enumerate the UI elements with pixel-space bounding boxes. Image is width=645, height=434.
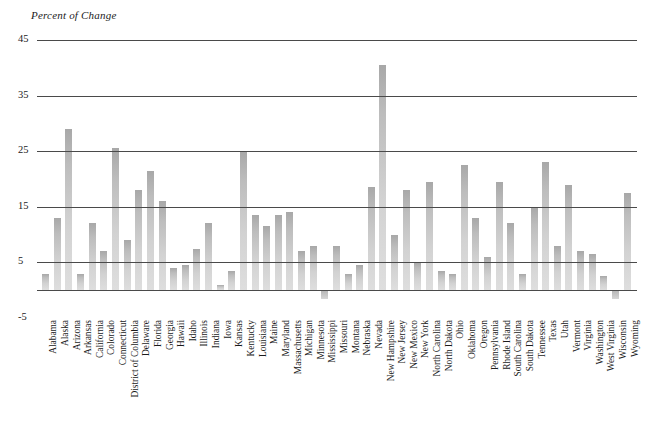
x-tick-label-nebraska: Nebraska — [363, 320, 372, 355]
gridline-45 — [37, 40, 637, 41]
x-tick-label-delaware: Delaware — [142, 320, 151, 356]
y-tick-label-25: 25 — [18, 144, 29, 155]
x-tick-label-virginia: Virginia — [584, 320, 593, 351]
gridline-5 — [37, 262, 637, 263]
x-tick-label-south-dakota: South Dakota — [526, 320, 535, 371]
x-tick-label-north-dakota: North Dakota — [445, 320, 454, 371]
y-tick-label-5: 5 — [18, 255, 23, 266]
x-tick-label-oklahoma: Oklahoma — [468, 320, 477, 359]
bar-california — [89, 223, 96, 290]
x-tick-label-alabama: Alabama — [49, 320, 58, 354]
plot-area — [37, 40, 637, 318]
bar-new-mexico — [403, 190, 410, 290]
x-tick-label-massachusetts: Massachusetts — [294, 320, 303, 374]
x-tick-label-arkansas: Arkansas — [84, 320, 93, 355]
x-tick-label-mississippi: Mississippi — [328, 320, 337, 363]
bar-nevada — [368, 187, 375, 290]
x-tick-label-colorado: Colorado — [107, 320, 116, 355]
y-tick-label-15: 15 — [18, 200, 29, 211]
gridline-35 — [37, 96, 637, 97]
x-tick-label-north-carolina: North Carolina — [433, 320, 442, 377]
y-tick-label--5: -5 — [18, 311, 27, 322]
x-tick-label-hawaii: Hawaii — [177, 320, 186, 347]
bar-texas — [542, 162, 549, 290]
bar-tennessee — [531, 207, 538, 290]
x-tick-label-indiana: Indiana — [212, 320, 221, 348]
x-tick-label-washington: Washington — [596, 320, 605, 365]
x-tick-label-pennsylvania: Pennsylvania — [491, 320, 500, 370]
bar-colorado — [100, 251, 107, 290]
bar-south-carolina — [507, 223, 514, 290]
bar-north-carolina — [426, 182, 433, 290]
x-tick-label-tennessee: Tennessee — [538, 320, 547, 358]
percent-of-change-bar-chart: Percent of Change 453525155-5 AlabamaAla… — [0, 0, 645, 434]
x-tick-label-vermont: Vermont — [573, 320, 582, 352]
y-tick-label-45: 45 — [18, 33, 29, 44]
x-tick-label-iowa: Iowa — [224, 320, 233, 339]
x-tick-label-rhode-island: Rhode Island — [503, 320, 512, 370]
bar-mississippi — [321, 290, 328, 298]
bar-michigan — [298, 251, 305, 290]
chart-title: Percent of Change — [31, 9, 116, 21]
bar-montana — [345, 274, 352, 291]
bar-virginia — [577, 251, 584, 290]
x-tick-label-new-jersey: New Jersey — [398, 320, 407, 363]
x-tick-label-maine: Maine — [270, 320, 279, 344]
x-tick-label-florida: Florida — [154, 320, 163, 347]
x-tick-label-west-virginia: West Virginia — [607, 320, 616, 371]
x-tick-label-georgia: Georgia — [166, 320, 175, 350]
bar-georgia — [159, 201, 166, 290]
bar-louisiana — [252, 215, 259, 290]
bar-north-dakota — [438, 271, 445, 290]
bar-hawaii — [170, 268, 177, 290]
x-tick-label-louisiana: Louisiana — [259, 320, 268, 357]
x-tick-label-kansas: Kansas — [235, 320, 244, 347]
bar-kansas — [228, 271, 235, 290]
bar-south-dakota — [519, 274, 526, 291]
bar-oklahoma — [461, 165, 468, 290]
bar-utah — [554, 246, 561, 290]
x-tick-label-missouri: Missouri — [340, 320, 349, 353]
x-tick-label-utah: Utah — [561, 320, 570, 338]
x-tick-label-michigan: Michigan — [305, 320, 314, 356]
gridline-25 — [37, 151, 637, 152]
bar-rhode-island — [496, 182, 503, 290]
x-tick-label-illinois: Illinois — [200, 320, 209, 347]
bar-washington — [589, 254, 596, 290]
x-tick-label-texas: Texas — [549, 320, 558, 342]
x-tick-label-wisconsin: Wisconsin — [619, 320, 628, 359]
bar-connecticut — [112, 148, 119, 290]
bar-missouri — [333, 246, 340, 290]
x-tick-label-california: California — [96, 320, 105, 358]
x-tick-label-district-of-columbia: District of Columbia — [131, 320, 140, 398]
bar-arkansas — [77, 274, 84, 291]
bar-west-virginia — [600, 276, 607, 290]
bar-maryland — [275, 215, 282, 290]
x-tick-label-alaska: Alaska — [61, 320, 70, 346]
x-tick-label-maryland: Maryland — [282, 320, 291, 356]
bar-maine — [263, 226, 270, 290]
x-tick-label-arizona: Arizona — [73, 320, 82, 350]
bar-massachusetts — [286, 212, 293, 290]
x-tick-label-oregon: Oregon — [480, 320, 489, 348]
bar-florida — [147, 171, 154, 291]
bar-arizona — [65, 129, 72, 290]
x-axis-labels: AlabamaAlaskaArizonaArkansasCaliforniaCo… — [37, 320, 637, 432]
x-tick-label-minnesota: Minnesota — [317, 320, 326, 360]
bar-new-york — [414, 262, 421, 290]
bar-oregon — [472, 218, 479, 290]
bar-ohio — [449, 274, 456, 291]
x-tick-label-wyoming: Wyoming — [631, 320, 640, 357]
bar-nebraska — [356, 265, 363, 290]
zero-baseline — [37, 290, 637, 291]
x-tick-label-idaho: Idaho — [189, 320, 198, 341]
bar-alabama — [42, 274, 49, 291]
x-tick-label-montana: Montana — [352, 320, 361, 353]
bar-delaware — [135, 190, 142, 290]
x-tick-label-connecticut: Connecticut — [119, 320, 128, 365]
x-tick-label-new-mexico: New Mexico — [410, 320, 419, 369]
x-tick-label-nevada: Nevada — [375, 320, 384, 349]
x-tick-label-south-carolina: South Carolina — [514, 320, 523, 377]
x-tick-label-ohio: Ohio — [456, 320, 465, 339]
bar-minnesota — [310, 246, 317, 290]
